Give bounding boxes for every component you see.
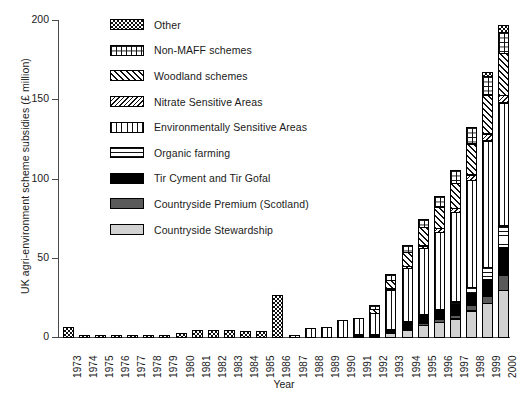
legend-item-4[interactable]: Environmentally Sensitive Areas (110, 114, 410, 140)
x-tick-label-1978: 1978 (152, 355, 163, 378)
bar-segment (498, 32, 509, 54)
bar-segment (224, 330, 235, 338)
bar-1998[interactable] (466, 127, 477, 337)
bar-1992[interactable] (369, 305, 380, 337)
chart-legend: OtherNon-MAFF schemesWoodland schemesNit… (110, 12, 410, 242)
bar-segment (482, 76, 493, 95)
legend-item-3[interactable]: Nitrate Sensitive Areas (110, 89, 410, 115)
bar-1974[interactable] (79, 335, 90, 337)
x-tick-label-1977: 1977 (136, 355, 147, 378)
x-tick-label-1989: 1989 (330, 355, 341, 378)
legend-label: Organic farming (154, 147, 230, 159)
bar-segment (192, 330, 203, 338)
bar-segment (498, 247, 509, 276)
bar-1984[interactable] (240, 331, 251, 337)
y-tick-label: 0 (19, 330, 49, 342)
bar-1973[interactable] (63, 327, 74, 337)
bar-segment (402, 268, 413, 322)
bar-segment (369, 335, 380, 338)
legend-item-2[interactable]: Woodland schemes (110, 63, 410, 89)
bar-1978[interactable] (143, 335, 154, 337)
x-tick-label-1988: 1988 (314, 355, 325, 378)
bar-segment (79, 335, 90, 338)
bar-segment (240, 331, 251, 337)
bar-segment (450, 319, 461, 338)
legend-label: Countryside Premium (Scotland) (154, 198, 309, 210)
bar-1999[interactable] (482, 72, 493, 337)
legend-item-8[interactable]: Countryside Stewardship (110, 217, 410, 243)
bar-segment (450, 183, 461, 208)
legend-item-1[interactable]: Non-MAFF schemes (110, 38, 410, 64)
bar-segment (402, 252, 413, 266)
y-tick-label: 150 (19, 92, 49, 104)
x-tick-label-1997: 1997 (459, 355, 470, 378)
bar-1994[interactable] (402, 245, 413, 337)
bar-1993[interactable] (385, 274, 396, 337)
bar-segment (321, 327, 332, 338)
x-tick-label-1985: 1985 (265, 355, 276, 378)
bar-1980[interactable] (176, 333, 187, 337)
bar-1981[interactable] (192, 330, 203, 337)
x-tick-label-1990: 1990 (346, 355, 357, 378)
bar-segment (482, 141, 493, 268)
y-tick-label: 100 (19, 172, 49, 184)
bar-1990[interactable] (337, 320, 348, 337)
legend-item-7[interactable]: Countryside Premium (Scotland) (110, 191, 410, 217)
x-tick-label-1979: 1979 (168, 355, 179, 378)
bar-1997[interactable] (450, 170, 461, 337)
legend-item-6[interactable]: Tir Cyment and Tir Gofal (110, 166, 410, 192)
x-tick-label-1974: 1974 (88, 355, 99, 378)
bar-segment (466, 293, 477, 306)
bar-1995[interactable] (418, 219, 429, 337)
legend-item-5[interactable]: Organic farming (110, 140, 410, 166)
bar-1987[interactable] (289, 335, 300, 337)
bar-1986[interactable] (272, 295, 283, 337)
legend-label: Non-MAFF schemes (154, 44, 252, 56)
bar-segment (353, 335, 364, 338)
y-tick-label: 200 (19, 13, 49, 25)
x-tick-label-1994: 1994 (411, 355, 422, 378)
bar-1979[interactable] (159, 335, 170, 337)
bar-segment (466, 180, 477, 288)
x-tick-label-1981: 1981 (201, 355, 212, 378)
bar-1985[interactable] (256, 331, 267, 337)
legend-swatch-icon (110, 173, 144, 184)
legend-label: Countryside Stewardship (154, 224, 273, 236)
legend-label: Other (154, 19, 181, 31)
chart-figure: UK agri-environment scheme subsidies (£ … (0, 0, 522, 396)
bar-segment (434, 207, 445, 229)
bar-segment (385, 333, 396, 338)
bar-segment (159, 335, 170, 338)
bar-segment (498, 53, 509, 96)
legend-label: Environmentally Sensitive Areas (154, 121, 307, 133)
x-tick-label-1995: 1995 (427, 355, 438, 378)
bar-1982[interactable] (208, 330, 219, 337)
bar-segment (63, 327, 74, 338)
bar-segment (482, 303, 493, 338)
bar-1977[interactable] (127, 335, 138, 337)
bar-1975[interactable] (95, 335, 106, 337)
legend-swatch-icon (110, 70, 144, 81)
bar-1989[interactable] (321, 327, 332, 337)
bar-segment (482, 279, 493, 296)
y-tick-label: 50 (19, 251, 49, 263)
bar-segment (176, 333, 187, 338)
legend-swatch-icon (110, 122, 144, 133)
bar-segment (498, 275, 509, 291)
legend-label: Tir Cyment and Tir Gofal (154, 172, 270, 184)
bar-2000[interactable] (498, 25, 509, 337)
bar-segment (418, 325, 429, 338)
bar-1988[interactable] (305, 328, 316, 337)
bar-1976[interactable] (111, 335, 122, 337)
bar-1991[interactable] (353, 318, 364, 337)
bar-segment (256, 331, 267, 337)
bar-segment (434, 232, 445, 310)
bar-segment (482, 95, 493, 135)
legend-item-0[interactable]: Other (110, 12, 410, 38)
x-tick-label-1986: 1986 (281, 355, 292, 378)
bar-1983[interactable] (224, 330, 235, 337)
x-tick-label-1992: 1992 (378, 355, 389, 378)
bar-segment (418, 227, 429, 246)
bar-segment (95, 335, 106, 338)
bar-1996[interactable] (434, 196, 445, 337)
